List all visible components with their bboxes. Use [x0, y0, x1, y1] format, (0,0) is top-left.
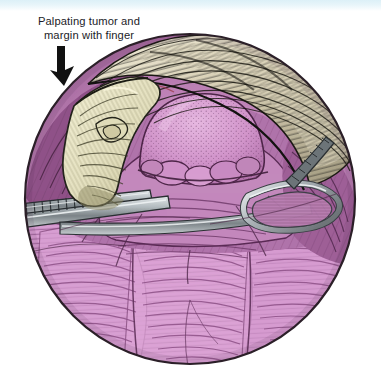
down-right-arrow: [44, 44, 86, 88]
illustration-stage: Palpating tumor and margin with finger: [0, 0, 381, 388]
annotation-label: Palpating tumor and margin with finger: [14, 14, 164, 43]
